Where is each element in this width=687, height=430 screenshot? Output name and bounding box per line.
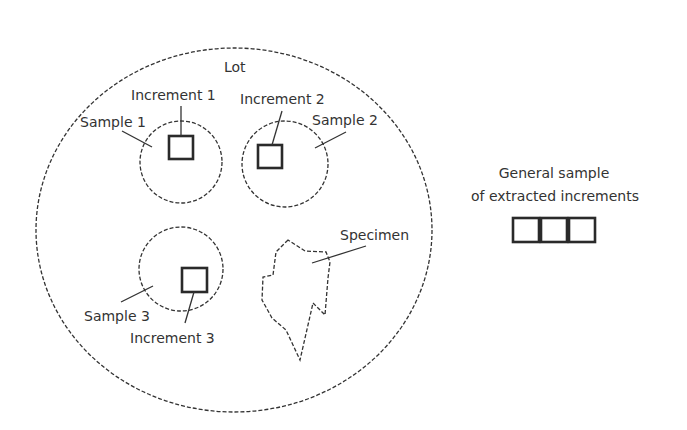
increment-2-box [258, 145, 282, 168]
increment-1-label: Increment 1 [131, 87, 216, 103]
sample-3-leader [121, 286, 153, 302]
increment-3-label: Increment 3 [130, 330, 215, 346]
sample-3-label: Sample 3 [84, 308, 150, 324]
increment-2-label: Increment 2 [240, 91, 325, 107]
general-sample-line1: General sample [499, 165, 610, 181]
general-increment-box-2 [541, 218, 567, 242]
increment-2-leader [272, 111, 282, 145]
increment-3-box [182, 268, 207, 292]
lot-label: Lot [224, 59, 246, 75]
sampling-diagram: Lot Increment 1 Sample 1 Increment 2 Sam… [0, 0, 687, 430]
general-increment-box-1 [513, 218, 539, 242]
specimen-label: Specimen [340, 227, 409, 243]
sample-2-label: Sample 2 [312, 112, 378, 128]
general-increment-box-3 [569, 218, 595, 242]
increment-3-leader [185, 292, 194, 323]
sample-1-label: Sample 1 [80, 114, 146, 130]
specimen-leader [312, 246, 366, 263]
sample-2-leader [315, 132, 346, 148]
increment-1-box [169, 136, 193, 159]
specimen-shape [262, 240, 330, 360]
general-sample-line2: of extracted increments [471, 188, 639, 204]
sample-2-circle [242, 121, 328, 207]
